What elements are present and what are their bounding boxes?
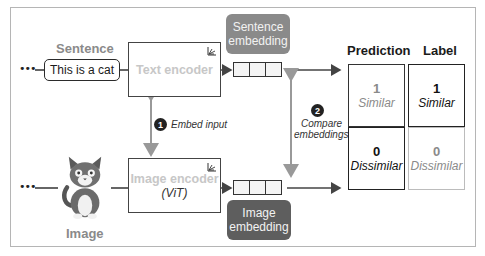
ellipsis-top: ••• (19, 62, 35, 75)
image-encoder-label: Image encoder (130, 172, 218, 186)
sentence-embedding-label: Sentence embedding (226, 14, 290, 54)
prediction-header: Prediction (347, 43, 411, 58)
label-cell-row1: 1 Similar (408, 64, 465, 127)
image-embedding-vector (233, 180, 282, 195)
image-encoder-sublabel: (ViT) (162, 186, 188, 200)
image-title: Image (66, 226, 104, 241)
image-encoder-box: Image encoder (ViT) (128, 158, 221, 213)
sentence-embedding-vector (233, 62, 282, 77)
step-2-label-line1: Compare (301, 118, 342, 129)
model-icon (207, 46, 217, 56)
text-encoder-label: Text encoder (136, 63, 213, 77)
prediction-cell-row2: 0 Dissimilar (348, 127, 405, 190)
sentence-title: Sentence (56, 41, 114, 56)
image-embedding-label: Image embedding (227, 200, 291, 240)
label-cell-row2: 0 Dissimilar (408, 127, 465, 190)
sentence-input: This is a cat (44, 59, 120, 81)
text-encoder-box: Text encoder (128, 42, 221, 97)
step-1-badge: 1 (154, 118, 167, 131)
model-icon (207, 162, 217, 172)
step-1-label: Embed input (171, 119, 227, 130)
cat-illustration (58, 153, 112, 221)
step-2-badge: 2 (311, 104, 324, 117)
ellipsis-bottom: ••• (19, 180, 35, 193)
label-header: Label (423, 43, 457, 58)
prediction-cell-row1: 1 Similar (348, 64, 405, 127)
step-2-label-line2: embeddings (294, 129, 348, 140)
